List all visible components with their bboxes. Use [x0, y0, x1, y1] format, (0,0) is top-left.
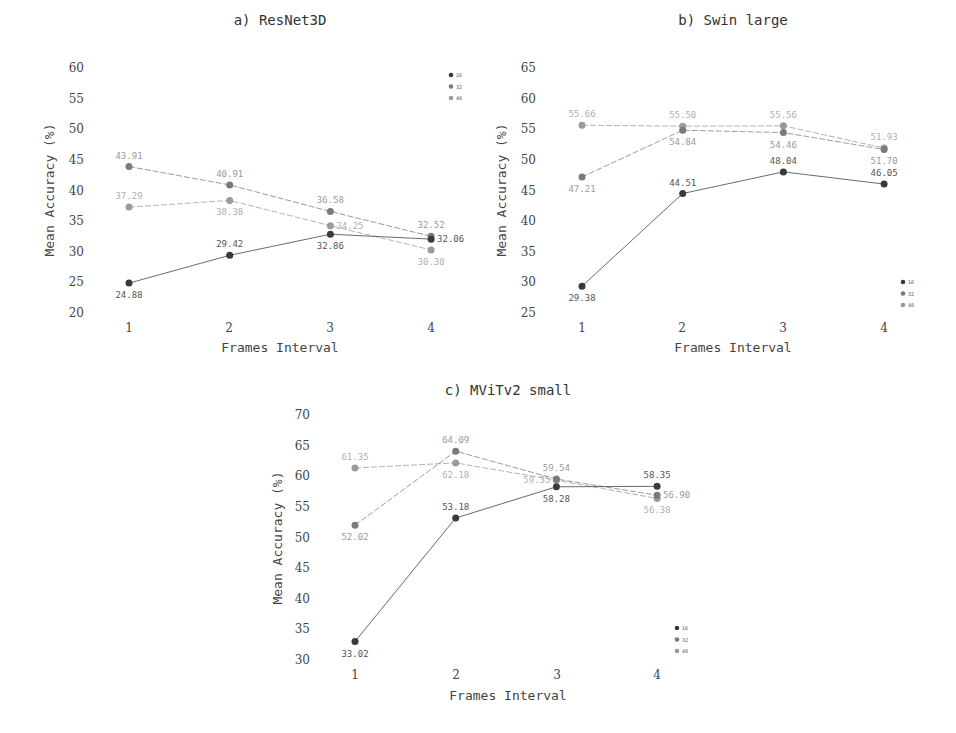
data-point[interactable]: [654, 483, 661, 490]
x-tick: 3: [326, 321, 334, 335]
legend-marker-icon: [675, 637, 680, 642]
legend: 163248: [675, 625, 688, 654]
y-tick: 55: [521, 122, 536, 136]
y-tick: 30: [69, 245, 84, 259]
legend-item-32[interactable]: 32: [675, 637, 688, 643]
data-point[interactable]: [579, 173, 586, 180]
data-point[interactable]: [352, 638, 359, 645]
chart-resnet3d: a) ResNet3D Mean Accuracy (%) Frames Int…: [42, 12, 464, 355]
data-point[interactable]: [452, 515, 459, 522]
y-tick: 40: [69, 184, 84, 198]
y-tick: 65: [521, 61, 536, 75]
data-label: 40.91: [216, 169, 243, 179]
data-label: 61.35: [341, 452, 368, 462]
data-label: 37.29: [115, 191, 142, 201]
legend: 163248: [449, 72, 462, 101]
data-point[interactable]: [226, 252, 233, 259]
data-point[interactable]: [553, 483, 560, 490]
y-tick: 35: [295, 622, 310, 636]
data-point[interactable]: [452, 448, 459, 455]
series-line: [129, 167, 431, 237]
data-label: 59.54: [543, 463, 570, 473]
legend-item-32[interactable]: 32: [901, 291, 914, 297]
x-axis-label: Frames Interval: [449, 688, 566, 703]
data-point[interactable]: [327, 231, 334, 238]
legend: 163248: [901, 279, 914, 308]
legend-item-48[interactable]: 48: [901, 302, 914, 308]
legend-marker-icon: [675, 626, 680, 631]
legend-marker-icon: [449, 73, 454, 78]
legend-item-16[interactable]: 16: [901, 279, 914, 285]
data-point[interactable]: [679, 127, 686, 134]
legend-item-48[interactable]: 48: [675, 648, 688, 654]
data-label: 62.18: [442, 470, 469, 480]
data-label: 36.58: [317, 195, 344, 205]
data-point[interactable]: [881, 181, 888, 188]
data-label: 47.21: [568, 184, 595, 194]
data-point[interactable]: [579, 283, 586, 290]
data-label: 33.02: [341, 649, 368, 659]
data-label: 55.66: [568, 109, 595, 119]
data-point[interactable]: [579, 122, 586, 129]
y-tick: 55: [295, 500, 310, 514]
y-tick: 55: [69, 92, 84, 106]
series-line: [129, 200, 431, 249]
y-ticks: 20 25 30 35 40 45 50 55 60: [69, 61, 84, 320]
x-tick: 4: [880, 321, 888, 335]
legend-item-16[interactable]: 16: [449, 72, 462, 78]
series-16: 24.8829.4232.8632.06: [115, 231, 464, 300]
data-point[interactable]: [452, 459, 459, 466]
y-axis-label: Mean Accuracy (%): [494, 123, 509, 256]
data-label: 56.90: [663, 490, 690, 500]
data-point[interactable]: [126, 163, 133, 170]
legend-marker-icon: [449, 84, 454, 89]
x-axis-label: Frames Interval: [221, 340, 338, 355]
data-point[interactable]: [327, 222, 334, 229]
data-point[interactable]: [881, 146, 888, 153]
x-ticks: 1 2 3 4: [351, 668, 661, 682]
legend-item-16[interactable]: 16: [675, 625, 688, 631]
x-ticks: 1 2 3 4: [125, 321, 435, 335]
data-point[interactable]: [780, 122, 787, 129]
series-32: 52.0264.0959.5456.90: [341, 435, 690, 542]
data-point[interactable]: [428, 236, 435, 243]
data-point[interactable]: [654, 492, 661, 499]
data-label: 32.86: [317, 241, 344, 251]
data-point[interactable]: [553, 476, 560, 483]
y-tick: 20: [69, 306, 84, 320]
data-point[interactable]: [126, 280, 133, 287]
data-label: 53.18: [442, 502, 469, 512]
data-point[interactable]: [780, 168, 787, 175]
data-point[interactable]: [780, 129, 787, 136]
data-point[interactable]: [126, 204, 133, 211]
data-point[interactable]: [226, 181, 233, 188]
data-point[interactable]: [327, 208, 334, 215]
x-tick: 2: [452, 668, 460, 682]
series-line: [582, 172, 884, 286]
data-label: 24.88: [115, 290, 142, 300]
plot-area: 55.6655.5055.5651.9347.2154.8454.4651.70…: [568, 109, 897, 303]
x-tick: 3: [779, 321, 787, 335]
series-line: [355, 463, 657, 499]
data-point[interactable]: [352, 464, 359, 471]
x-tick: 1: [125, 321, 133, 335]
data-point[interactable]: [226, 197, 233, 204]
legend-marker-icon: [675, 649, 680, 654]
y-tick: 50: [69, 122, 84, 136]
data-label: 52.02: [341, 532, 368, 542]
y-tick: 60: [521, 92, 536, 106]
data-label: 58.35: [644, 470, 671, 480]
series-16: 29.3844.5148.0446.05: [568, 156, 897, 303]
data-point[interactable]: [352, 522, 359, 529]
series-line: [129, 234, 431, 283]
legend-item-32[interactable]: 32: [449, 84, 462, 90]
legend-label: 32: [682, 637, 688, 643]
data-label: 54.84: [669, 137, 696, 147]
data-point[interactable]: [428, 246, 435, 253]
data-label: 34.25: [336, 221, 363, 231]
data-label: 48.04: [770, 156, 797, 166]
legend-item-48[interactable]: 48: [449, 95, 462, 101]
y-tick: 65: [295, 439, 310, 453]
legend-marker-icon: [901, 291, 906, 296]
data-point[interactable]: [679, 190, 686, 197]
